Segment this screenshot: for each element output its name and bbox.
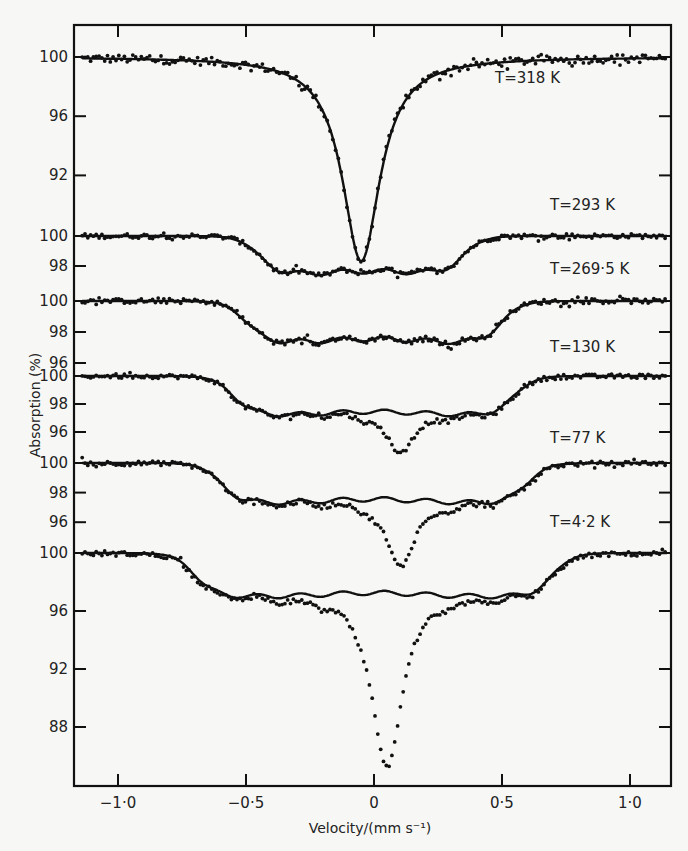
data-point [261,256,265,260]
data-point [283,504,287,508]
temperature-label: T=318 K [494,69,561,87]
data-point [570,232,574,236]
data-point [120,298,124,302]
data-point [215,477,219,481]
data-point [449,347,453,351]
y-tick-label: 98 [49,257,68,275]
data-point [565,232,569,236]
data-point [370,696,374,700]
data-point [551,60,555,64]
data-point [314,94,318,98]
data-point [137,459,141,463]
x-tick-label: −1·0 [100,794,136,812]
data-point [460,254,464,258]
data-point [272,600,276,604]
data-point [539,234,543,238]
data-point [567,238,571,242]
fit-curve [82,58,667,261]
data-point [593,372,597,376]
data-point [660,234,664,238]
data-point [444,418,448,422]
data-point [421,340,425,344]
data-point [613,465,617,469]
data-point [123,550,127,554]
data-point [89,59,93,63]
data-point [255,328,259,332]
data-point [415,431,419,435]
data-point [644,297,648,301]
data-point [156,460,160,464]
data-point [418,336,422,340]
data-point [534,234,538,238]
data-point [241,315,245,319]
data-point [615,53,619,57]
data-point [365,245,369,249]
data-point [438,78,442,82]
data-point [151,551,155,555]
data-point [567,305,571,309]
temperature-label: T=293 K [549,196,616,214]
plot-frame [74,25,671,786]
data-point [376,336,380,340]
data-point [469,63,473,67]
y-tick-label: 96 [49,423,68,441]
mossbauer-spectra-chart: 1009692100981009896100989610098961009692… [0,0,688,851]
data-point [390,266,394,270]
data-point [100,56,104,60]
data-point [553,378,557,382]
data-point [429,339,433,343]
data-point [627,373,631,377]
data-point [193,575,197,579]
data-point [562,465,566,469]
data-point [418,632,422,636]
data-point [486,500,490,504]
data-point [331,608,335,612]
data-point [531,383,535,387]
data-point [621,53,625,57]
data-point [525,385,529,389]
data-point [120,376,124,380]
data-point [325,119,329,123]
data-point [376,732,380,736]
data-point [289,602,293,606]
data-point [111,55,115,59]
data-point [334,148,338,152]
data-point [570,376,574,380]
data-point [503,57,507,61]
data-point [106,54,110,58]
data-point [317,504,321,508]
data-point [607,554,611,558]
data-point [156,296,160,300]
data-point [565,301,569,305]
data-point [393,740,397,744]
data-point [80,456,84,460]
data-point [562,236,566,240]
data-point [337,610,341,614]
y-tick-label: 100 [39,48,68,66]
data-point [252,249,256,253]
data-point [452,607,456,611]
data-point [587,301,591,305]
data-point [297,271,301,275]
data-point [458,257,462,261]
data-point [655,57,659,61]
data-point [348,219,352,223]
data-point [204,57,208,61]
data-point [537,590,541,594]
data-point [213,303,217,307]
data-point [418,525,422,529]
data-point [542,59,546,63]
data-point [111,551,115,555]
data-point [235,496,239,500]
data-point [444,611,448,615]
data-point [491,330,495,334]
data-point [162,231,166,235]
data-point [658,54,662,58]
fit-curve [82,463,667,505]
data-point [137,58,141,62]
data-point [134,55,138,59]
data-point [379,747,383,751]
data-point [455,65,459,69]
data-point [370,516,374,520]
data-point [584,56,588,60]
